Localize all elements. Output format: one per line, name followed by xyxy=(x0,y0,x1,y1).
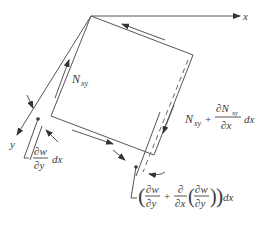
left-shear-arrow xyxy=(55,60,69,98)
svg-text:∂N: ∂N xyxy=(216,102,229,114)
plate-shear-diagram: x y N xy N xy + ∂N xy ∂x dx xyxy=(0,0,265,226)
svg-text:+: + xyxy=(164,190,170,202)
svg-text:∂: ∂ xyxy=(178,183,183,195)
dashed-reference-line xyxy=(143,60,188,172)
left-rotation-arrow xyxy=(27,95,33,108)
nxy-label: N xy xyxy=(71,72,89,88)
x-axis: x xyxy=(91,10,248,22)
svg-text:∂y: ∂y xyxy=(146,197,156,209)
left-slope-label: ∂w ∂y dx xyxy=(33,145,63,171)
svg-text:∂w: ∂w xyxy=(34,145,47,157)
svg-text:∂y: ∂y xyxy=(195,197,205,209)
bottom-slope-arrow xyxy=(113,150,125,160)
right-slope-label: ( ∂w ∂y + ∂ ∂x ( ∂w ∂y ) ) dx xyxy=(138,183,234,209)
svg-text:∂x: ∂x xyxy=(175,197,185,209)
right-rotation-arrow xyxy=(149,172,165,175)
svg-text:(: ( xyxy=(138,183,145,208)
svg-text:dx: dx xyxy=(52,153,63,165)
svg-text:∂x: ∂x xyxy=(221,119,231,131)
top-shear-arrow xyxy=(122,24,165,40)
svg-text:+: + xyxy=(205,113,211,125)
svg-text:dx: dx xyxy=(223,191,234,203)
right-leader xyxy=(131,167,137,198)
y-axis-label: y xyxy=(9,138,15,150)
svg-text:xy: xy xyxy=(231,109,239,117)
svg-text:∂y: ∂y xyxy=(34,159,44,171)
svg-text:dx: dx xyxy=(244,113,255,125)
left-slope-arrow xyxy=(46,130,58,142)
nxy-increment-label: N xy + ∂N xy ∂x dx xyxy=(184,102,255,131)
svg-text:xy: xy xyxy=(80,79,89,88)
x-axis-label: x xyxy=(242,10,248,22)
svg-text:∂w: ∂w xyxy=(146,183,159,195)
svg-text:N: N xyxy=(184,112,194,126)
right-slope-line xyxy=(136,112,160,176)
svg-text:(: ( xyxy=(188,185,195,208)
svg-text:∂w: ∂w xyxy=(195,183,208,195)
svg-text:xy: xy xyxy=(193,119,202,128)
svg-text:N: N xyxy=(71,72,81,86)
